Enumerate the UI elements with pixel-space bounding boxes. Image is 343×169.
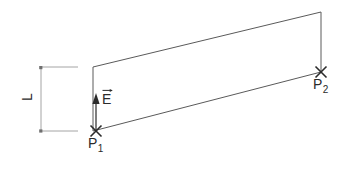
point-label-p2: P2 xyxy=(313,77,328,95)
point-label-p2-base: P xyxy=(313,76,322,92)
physics-diagram-figure xyxy=(0,0,343,169)
plane-edge-bottom xyxy=(93,72,321,131)
field-label-text: E xyxy=(102,91,111,107)
plane-edge-top xyxy=(93,12,321,67)
point-label-p1-base: P xyxy=(88,135,97,151)
diagram-canvas: L E P1 P2 xyxy=(0,0,343,169)
point-label-p1-subscript: 1 xyxy=(97,143,103,154)
parallelogram-plane xyxy=(93,12,321,131)
point-label-p1: P1 xyxy=(88,136,103,154)
dimension-tick-top xyxy=(39,66,42,69)
length-dimension-L xyxy=(39,66,78,133)
field-label-E: E xyxy=(102,92,111,106)
point-label-p2-subscript: 2 xyxy=(322,84,328,95)
dimension-tick-bottom xyxy=(39,129,42,132)
length-label-L: L xyxy=(20,84,34,110)
field-label-wrapper: E xyxy=(102,92,111,106)
